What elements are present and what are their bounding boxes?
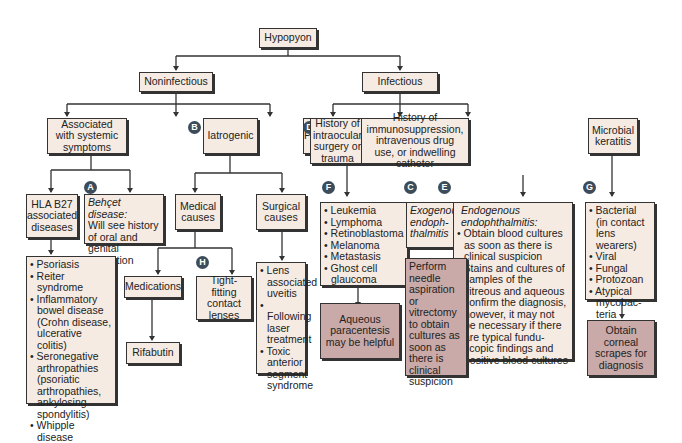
node-title: Behçet disease: <box>88 197 160 220</box>
node-label: Exogenous endoph-thalmitis <box>410 205 456 240</box>
node-perform-aspiration: Perform needle aspiration or vitrectomy … <box>405 258 467 376</box>
node-label: Infectious <box>378 76 423 88</box>
node-rifabutin: Rifabutin <box>126 342 180 364</box>
node-behcet: Behçet disease:Will see history of oral … <box>84 194 164 244</box>
node-label: Perform needle aspiration or vitrectomy … <box>409 260 460 387</box>
node-history-immuno: History of immunosuppression, intravenou… <box>361 118 469 164</box>
node-medications: Medications <box>124 276 182 298</box>
badge-b-icon: B <box>188 121 201 134</box>
list-item: Inflammatory bowel disease (Crohn diseas… <box>30 294 112 352</box>
list-item: Stains and cultures of samples of the vi… <box>457 263 569 367</box>
node-aqueous-paracentesis: Aqueous paracentesis may be helpful <box>320 303 400 359</box>
surgical-list: Lens associated uveitisFollowing laser t… <box>260 265 302 392</box>
list-item: Lens associated uveitis <box>260 265 302 300</box>
list-item: Toxic anterior segment syndrome <box>260 346 302 392</box>
list-item: Leukemia <box>324 205 404 217</box>
list-item: Metastasis <box>324 251 404 263</box>
list-item: Ghost cell glaucoma <box>324 263 404 286</box>
list-item: Whipple disease <box>30 420 112 443</box>
endo-list: Obtain blood cultures as soon as there i… <box>457 228 569 366</box>
node-iatrogenic: Iatrogenic <box>203 118 258 154</box>
node-microbial-keratitis: Microbial keratitis <box>588 118 638 154</box>
node-label: Noninfectious <box>144 76 208 88</box>
node-label: HLA B27 associated diseases <box>27 199 77 234</box>
node-label: Hypopyon <box>264 32 311 44</box>
node-surgical-causes: Surgical causes <box>256 194 306 230</box>
node-infectious: Infectious <box>362 72 438 92</box>
node-label: Aqueous paracentesis may be helpful <box>324 314 396 349</box>
list-item: Retinoblastoma <box>324 228 404 240</box>
list-item: Atypical mycobac-teria <box>589 286 651 321</box>
node-label: Associated with systemic symptoms <box>51 119 123 154</box>
list-item: Seronegative arthropathies (psoriatic ar… <box>30 351 112 420</box>
microbial-list: Bacterial (in contact lens wearers)Viral… <box>589 205 651 320</box>
list-item: Obtain blood cultures as soon as there i… <box>457 228 569 263</box>
node-label: Surgical causes <box>260 201 302 224</box>
node-label: Tight-fitting contact lenses <box>200 275 248 321</box>
node-label: Medical causes <box>179 201 217 224</box>
node-noninfectious: Noninfectious <box>139 72 213 92</box>
node-hla-list: PsoriasisReiter syndromeInflammatory bow… <box>26 256 116 404</box>
list-item: Protozoan <box>589 274 651 286</box>
list-item: Psoriasis <box>30 259 112 271</box>
node-history-surgery: History of intraocular surgery or trauma <box>310 118 365 164</box>
pseudo-list: LeukemiaLymphomaRetinoblastomaMelanomaMe… <box>324 205 404 286</box>
node-hla-b27: HLA B27 associated diseases <box>26 194 78 238</box>
badge-a-icon: A <box>84 181 97 194</box>
node-label: History of intraocular surgery or trauma <box>313 118 362 164</box>
list-item: Following laser treatment <box>260 300 302 346</box>
node-microbial-list: Bacterial (in contact lens wearers)Viral… <box>585 202 655 300</box>
badge-g-icon: G <box>583 181 596 194</box>
node-label: Iatrogenic <box>207 130 253 142</box>
node-label: Rifabutin <box>132 347 173 359</box>
node-pseudo-list: LeukemiaLymphomaRetinoblastomaMelanomaMe… <box>320 202 408 286</box>
node-medical-causes: Medical causes <box>175 194 221 230</box>
list-item: Bacterial (in contact lens wearers) <box>589 205 651 251</box>
node-label: Microbial keratitis <box>592 125 634 148</box>
badge-h-icon: H <box>196 256 209 269</box>
node-exogenous: Exogenous endoph-thalmitis <box>406 202 460 248</box>
node-contact-lenses: Tight-fitting contact lenses <box>196 276 252 320</box>
hla-list: PsoriasisReiter syndromeInflammatory bow… <box>30 259 112 443</box>
list-item: Viral <box>589 251 651 263</box>
node-title: Endogenous endophthalmitis: <box>457 205 569 228</box>
node-surgical-list: Lens associated uveitisFollowing laser t… <box>256 262 306 374</box>
node-hypopyon: Hypopyon <box>259 28 317 48</box>
node-endogenous: Endogenous endophthalmitis:Obtain blood … <box>453 202 573 360</box>
node-label: History of immunosuppression, intravenou… <box>365 112 465 170</box>
node-corneal-scrapes: Obtain corneal scrapes for diagnosis <box>587 320 655 376</box>
list-item: Reiter syndrome <box>30 271 112 294</box>
badge-e-icon: E <box>438 181 451 194</box>
node-label: Medications <box>125 281 181 293</box>
node-label: Obtain corneal scrapes for diagnosis <box>591 325 651 371</box>
badge-f-icon: F <box>322 181 335 194</box>
node-associated-systemic: Associated with systemic symptoms <box>47 118 127 154</box>
badge-c-icon: C <box>404 181 417 194</box>
